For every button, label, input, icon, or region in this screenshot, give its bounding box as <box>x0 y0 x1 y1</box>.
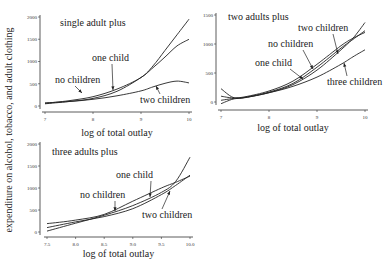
y-tick-label: 1000 <box>27 186 38 191</box>
y-tick-label: 1500 <box>27 164 38 169</box>
arrowhead-icon <box>111 86 114 90</box>
x-tick-label: 10 <box>187 117 193 122</box>
x-axis-title: log of total outlay <box>83 248 154 259</box>
x-tick-label: 8.0 <box>72 242 79 247</box>
y-tick-label: 500 <box>30 82 38 87</box>
curve-label: two children <box>142 209 192 220</box>
y-tick-label: 1000 <box>203 42 214 47</box>
y-tick-label: 2000 <box>27 15 38 20</box>
curve-label: two children <box>298 22 348 33</box>
curve-label: no children <box>80 189 125 200</box>
panel-title: single adult plus <box>60 17 126 28</box>
curve-three-children <box>221 50 365 98</box>
chart-figure: expenditure on alcohol, tobacco, and adu… <box>0 0 387 270</box>
panel-2: 05001000150078910two adults pluslog of t… <box>203 11 382 133</box>
panel-1: 050010001500200078910single adult pluslo… <box>27 15 192 138</box>
x-tick-label: 9 <box>316 115 319 120</box>
x-tick-label: 9 <box>140 117 143 122</box>
arrowhead-icon <box>343 63 346 67</box>
panel-title: two adults plus <box>228 11 289 22</box>
y-tick-label: 1500 <box>203 13 214 18</box>
y-tick-label: 500 <box>30 208 38 213</box>
curve-label: three children <box>327 76 382 87</box>
y-tick-label: 500 <box>206 71 214 76</box>
panels: 050010001500200078910single adult pluslo… <box>27 11 382 259</box>
y-axis-title: expenditure on alcohol, tobacco, and adu… <box>3 28 14 233</box>
x-axis-title: log of total outlay <box>81 127 152 138</box>
arrowhead-icon <box>149 193 152 197</box>
curve-label: one child <box>92 52 129 63</box>
x-tick-label: 8.5 <box>101 242 108 247</box>
y-tick-label: 0 <box>35 230 38 235</box>
curve-label: two children <box>140 94 190 105</box>
x-tick-label: 8 <box>268 115 271 120</box>
x-tick-label: 10.0 <box>186 242 195 247</box>
arrow-icon <box>112 64 113 90</box>
curve-label: no children <box>268 38 313 49</box>
y-tick-label: 2000 <box>27 142 38 147</box>
panel-title: three adults plus <box>52 146 118 157</box>
x-axis-title: log of total outlay <box>257 122 328 133</box>
x-tick-label: 9.0 <box>130 242 137 247</box>
curve-label: one child <box>255 57 292 68</box>
y-tick-label: 0 <box>35 104 38 109</box>
x-tick-label: 7 <box>44 117 47 122</box>
y-tick-label: 0 <box>211 100 214 105</box>
curve-label: no children <box>55 74 100 85</box>
x-tick-label: 7.5 <box>44 242 51 247</box>
x-tick-label: 10 <box>363 115 369 120</box>
x-tick-label: 8 <box>92 117 95 122</box>
x-tick-label: 7 <box>220 115 223 120</box>
y-tick-label: 1000 <box>27 59 38 64</box>
y-tick-label: 1500 <box>27 37 38 42</box>
panel-3: 05001000150020007.58.08.59.09.510.0three… <box>27 142 195 259</box>
curve-label: one child <box>116 169 153 180</box>
x-tick-label: 9.5 <box>158 242 165 247</box>
